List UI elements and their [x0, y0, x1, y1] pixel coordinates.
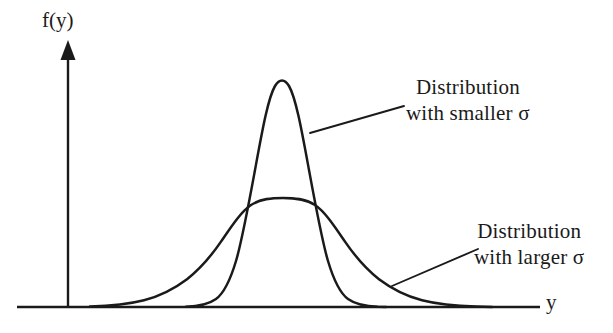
annotation-smaller-sigma: Distribution with smaller σ [406, 74, 530, 126]
plot-canvas [0, 0, 613, 333]
annotation-larger-sigma-line2: with larger σ [474, 244, 584, 270]
annotation-larger-sigma: Distribution with larger σ [474, 218, 584, 270]
annotation-larger-sigma-line1: Distribution [474, 218, 584, 244]
curve-smaller-sigma [186, 81, 386, 307]
arrow-up-icon [61, 40, 76, 60]
annotation-smaller-sigma-line1: Distribution [406, 74, 530, 100]
x-axis-label: y [546, 290, 557, 315]
distribution-figure: f(y) y Distribution with smaller σ Distr… [0, 0, 613, 333]
curve-larger-sigma [90, 198, 492, 307]
annotation-smaller-sigma-line2: with smaller σ [406, 100, 530, 126]
leader-line-smaller-sigma [310, 106, 404, 133]
y-axis-label: f(y) [42, 8, 73, 33]
leader-line-larger-sigma [392, 249, 478, 286]
